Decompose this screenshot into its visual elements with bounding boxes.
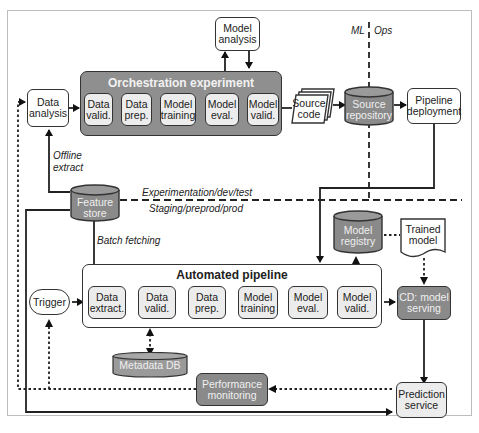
lower-env-label: Staging/preprod/prod (149, 203, 243, 215)
ml-label: ML (351, 25, 365, 37)
step-label: Model training (239, 292, 277, 314)
performance-monitoring-node: Performance monitoring (196, 373, 268, 406)
ops-label: Ops (374, 25, 392, 37)
data-analysis-label: Data analysis (28, 97, 68, 119)
step-label: Data extract. (89, 292, 125, 314)
upper-env-label: Experimentation/dev/test (142, 187, 252, 199)
step-label: Data valid. (139, 292, 175, 314)
cd-model-serving-label: CD: model serving (398, 292, 450, 314)
step-label: Model valid. (338, 292, 376, 314)
orch-step-model-training: Model training (160, 93, 196, 126)
step-label: Data valid. (85, 99, 112, 121)
data-analysis-node: Data analysis (27, 89, 69, 127)
step-label: Data prep. (122, 99, 151, 121)
step-label: Model eval. (206, 99, 238, 121)
model-analysis-node: Model analysis (215, 17, 260, 51)
auto-step-model-eval: Model eval. (288, 286, 328, 319)
feature-store-node: Feature store (70, 184, 120, 222)
prediction-service-label: Prediction service (397, 389, 446, 411)
pipeline-deployment-label: Pipeline deployment (407, 95, 461, 117)
model-analysis-label: Model analysis (216, 23, 259, 45)
auto-step-model-valid: Model valid. (337, 286, 377, 319)
orch-step-model-eval: Model eval. (205, 93, 239, 126)
batch-fetching-label: Batch fetching (97, 235, 160, 247)
cd-model-serving-node: CD: model serving (397, 286, 451, 320)
source-code-node: Source code (288, 86, 336, 126)
source-repository-label: Source repository (344, 99, 394, 121)
step-label: Model training (161, 99, 195, 121)
orch-step-model-valid: Model valid. (247, 93, 279, 126)
source-code-label: Source code (288, 98, 330, 120)
trained-model-node: Trained model (400, 218, 446, 260)
orchestration-title: Orchestration experiment (80, 76, 282, 90)
feature-store-label: Feature store (70, 197, 120, 219)
pipeline-deployment-node: Pipeline deployment (407, 88, 461, 124)
model-registry-node: Model registry (333, 210, 383, 254)
offline-extract-label: Offline extract (53, 150, 93, 174)
orch-step-data-valid: Data valid. (84, 93, 113, 126)
step-label: Model eval. (289, 292, 327, 314)
model-registry-label: Model registry (333, 225, 383, 247)
orch-step-data-prep: Data prep. (121, 93, 152, 126)
performance-monitoring-label: Performance monitoring (197, 379, 267, 401)
auto-step-data-valid: Data valid. (138, 286, 176, 319)
metadata-db-node: Metadata DB (112, 352, 188, 378)
auto-step-data-extract: Data extract. (88, 286, 126, 319)
metadata-db-label: Metadata DB (112, 360, 188, 371)
auto-step-data-prep: Data prep. (188, 286, 226, 319)
trigger-node: Trigger (29, 289, 70, 315)
automated-pipeline-title: Automated pipeline (82, 268, 382, 282)
source-repository-node: Source repository (344, 86, 394, 126)
trigger-label: Trigger (33, 297, 66, 308)
step-label: Data prep. (189, 292, 225, 314)
auto-step-model-training: Model training (238, 286, 278, 319)
prediction-service-node: Prediction service (396, 382, 447, 418)
step-label: Model valid. (248, 99, 278, 121)
trained-model-label: Trained model (400, 224, 446, 246)
